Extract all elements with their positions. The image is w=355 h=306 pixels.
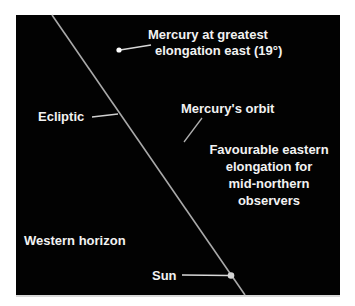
sun-label: Sun (152, 268, 177, 283)
western-horizon-label: Western horizon (24, 233, 126, 248)
mercury-dot (116, 47, 121, 52)
sun-leader-line (182, 275, 229, 276)
mercury-elongation-label-line2: elongation east (19°) (155, 43, 282, 58)
ecliptic-leader-line (92, 114, 118, 117)
mercury-elongation-label-line1: Mercury at greatest (148, 27, 268, 42)
favourable-elongation-label-line1: Favourable eastern (204, 142, 334, 157)
ecliptic-label: Ecliptic (38, 109, 84, 124)
mercury-orbit-line (184, 118, 202, 142)
favourable-elongation-label-line4: observers (204, 193, 334, 208)
mercury-leader-line (120, 45, 151, 50)
mercury-orbit-label: Mercury's orbit (181, 101, 274, 116)
sun-dot (228, 272, 235, 279)
favourable-elongation-label-line3: mid-northern (204, 176, 334, 191)
favourable-elongation-label-line2: elongation for (204, 159, 334, 174)
